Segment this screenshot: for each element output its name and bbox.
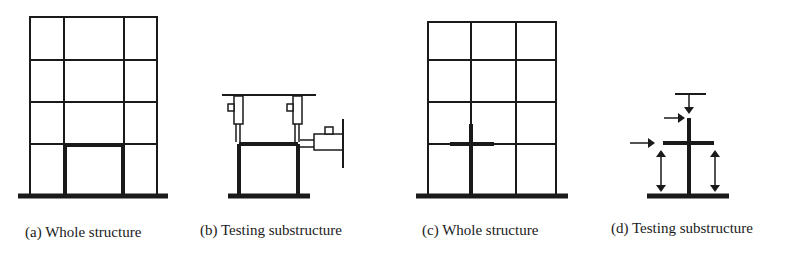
panel-a-whole-structure-frame xyxy=(18,17,168,196)
figure-canvas xyxy=(0,0,793,257)
panel-c-whole-structure-frame xyxy=(416,22,568,196)
caption-panel-b: (b) Testing substructure xyxy=(200,222,342,239)
caption-panel-c: (c) Whole structure xyxy=(422,222,538,239)
caption-panel-d: (d) Testing substructure xyxy=(611,220,753,237)
panel-d-testing-substructure xyxy=(630,94,729,196)
caption-panel-a: (a) Whole structure xyxy=(25,224,141,241)
panel-b-testing-substructure xyxy=(222,95,343,196)
